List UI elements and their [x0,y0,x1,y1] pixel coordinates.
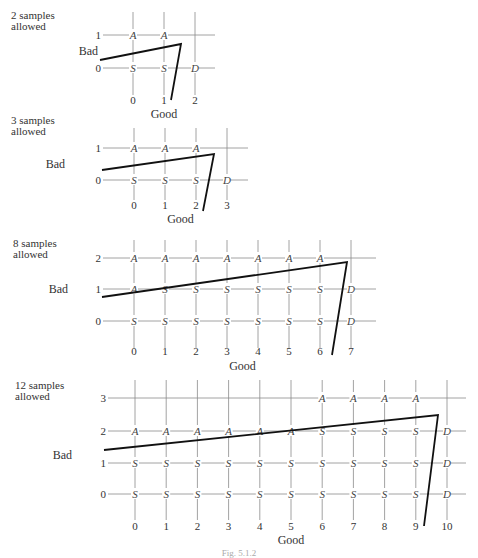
x-tick-label: 0 [132,520,138,532]
y-tick-label: 2 [96,252,102,264]
state-S: S [382,457,388,469]
state-A: A [285,252,293,264]
sampling-diagram: 0120SSD1AABadGood01230SSSD1AAABadGood012… [0,0,478,558]
state-S: S [382,425,388,437]
x-tick-label: 8 [382,520,388,532]
state-S: S [319,457,325,469]
x-tick-label: 2 [193,345,199,357]
state-S: S [255,315,261,327]
state-D: D [346,283,355,295]
state-S: S [413,488,419,500]
state-S: S [195,457,201,469]
decision-boundary [102,262,347,355]
state-A: A [318,392,326,404]
x-tick-label: 0 [131,345,137,357]
state-A: A [380,392,388,404]
state-S: S [131,315,137,327]
state-S: S [288,457,294,469]
state-A: A [193,425,201,437]
state-A: A [131,425,139,437]
state-S: S [288,488,294,500]
state-A: A [254,252,262,264]
state-S: S [193,315,199,327]
state-D: D [442,425,451,437]
x-tick-label: 2 [192,94,198,106]
y-tick-label: 1 [101,457,107,469]
state-S: S [131,174,137,186]
state-S: S [162,174,168,186]
y-tick-label: 0 [96,315,102,327]
state-A: A [316,252,324,264]
x-tick-label: 7 [351,520,357,532]
state-S: S [195,488,201,500]
x-tick-label: 4 [257,520,263,532]
state-S: S [413,425,419,437]
x-axis-label: Good [229,359,256,373]
state-A: A [192,142,200,154]
state-S: S [351,457,357,469]
state-S: S [319,488,325,500]
state-D: D [346,315,355,327]
state-S: S [286,315,292,327]
state-A: A [161,142,169,154]
y-tick-label: 0 [101,488,107,500]
y-axis-label: Bad [53,448,72,462]
state-S: S [193,283,199,295]
x-tick-label: 5 [288,520,294,532]
x-tick-label: 7 [348,345,354,357]
state-S: S [351,488,357,500]
y-tick-label: 3 [101,392,107,404]
x-axis-label: Good [278,533,305,547]
x-tick-label: 0 [131,199,137,211]
state-A: A [224,425,232,437]
state-S: S [224,283,230,295]
x-tick-label: 0 [130,94,136,106]
state-A: A [130,252,138,264]
state-S: S [163,457,169,469]
state-S: S [382,488,388,500]
y-tick-label: 1 [96,283,102,295]
y-tick-label: 0 [96,62,102,74]
state-S: S [162,315,168,327]
y-tick-label: 1 [96,29,102,41]
state-D: D [222,174,231,186]
x-axis-label: Good [151,107,178,121]
x-tick-label: 3 [226,520,232,532]
state-S: S [161,62,167,74]
state-A: A [411,392,419,404]
state-S: S [132,488,138,500]
state-A: A [192,252,200,264]
x-axis-label: Good [167,212,194,226]
state-A: A [161,252,169,264]
state-A: A [130,142,138,154]
y-tick-label: 0 [96,174,102,186]
state-A: A [129,29,137,41]
state-S: S [413,457,419,469]
state-S: S [193,174,199,186]
x-tick-label: 4 [255,345,261,357]
state-S: S [317,283,323,295]
state-S: S [226,488,232,500]
x-tick-label: 10 [442,520,454,532]
x-tick-label: 1 [161,94,167,106]
state-A: A [162,425,170,437]
state-D: D [442,488,451,500]
state-S: S [351,425,357,437]
state-D: D [442,457,451,469]
x-tick-label: 6 [317,345,323,357]
state-S: S [255,283,261,295]
state-S: S [130,62,136,74]
x-tick-label: 3 [224,345,230,357]
state-S: S [257,488,263,500]
y-tick-label: 1 [96,142,102,154]
state-S: S [132,457,138,469]
state-A: A [255,425,263,437]
x-tick-label: 5 [286,345,292,357]
x-tick-label: 6 [319,520,325,532]
state-A: A [223,252,231,264]
state-A: A [160,29,168,41]
state-S: S [257,457,263,469]
figure-caption: Fig. 5.1.2 [222,548,257,558]
y-axis-label: Bad [79,44,98,58]
state-S: S [163,488,169,500]
